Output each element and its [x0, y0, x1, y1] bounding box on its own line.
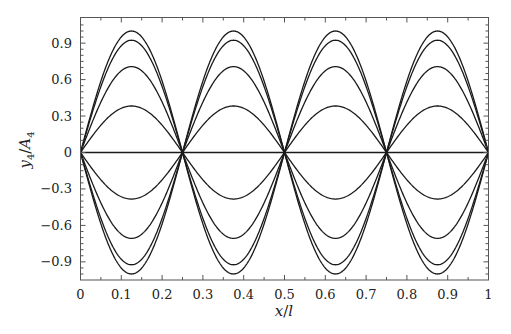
y-tick-label: −0.9 [40, 254, 72, 269]
wave-curves [81, 31, 489, 274]
x-tick-label: 0.7 [356, 287, 377, 302]
y-tick-label: 0.6 [51, 72, 72, 87]
plot-frame [81, 18, 489, 281]
x-tick-label: 0 [76, 287, 84, 302]
standing-wave-chart: 00.10.20.30.40.50.60.70.80.91 0.90.60.30… [0, 0, 511, 334]
x-tick-label: 0.2 [152, 287, 173, 302]
y-tick-label: 0.9 [51, 36, 72, 51]
x-axis-label: x/l [275, 302, 294, 320]
x-tick-label: 0.6 [315, 287, 336, 302]
x-tick-label: 0.1 [111, 287, 132, 302]
x-tick-label: 0.4 [233, 287, 254, 302]
x-tick-label: 0.9 [437, 287, 458, 302]
x-axis-ticks: 00.10.20.30.40.50.60.70.80.91 [76, 18, 492, 303]
x-tick-label: 0.3 [193, 287, 214, 302]
y-tick-label: 0 [64, 145, 72, 160]
y-axis-label: y4/A4 [16, 131, 36, 169]
y-tick-label: −0.3 [40, 181, 72, 196]
x-tick-label: 0.8 [397, 287, 418, 302]
x-tick-label: 1 [484, 287, 492, 302]
x-tick-label: 0.5 [274, 287, 295, 302]
y-tick-label: −0.6 [40, 218, 72, 233]
y-tick-label: 0.3 [51, 109, 72, 124]
